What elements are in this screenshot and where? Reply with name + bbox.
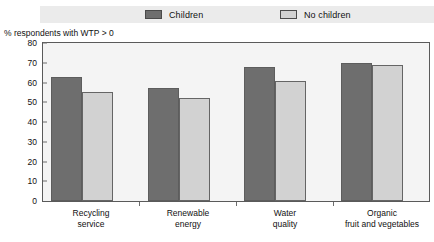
y-tick-label: 50 bbox=[28, 97, 37, 107]
y-tick-mark bbox=[43, 82, 47, 83]
plot-inner: 80 70 60 50 40 30 20 10 0 bbox=[43, 43, 429, 201]
x-label-line: Renewable bbox=[167, 208, 210, 219]
bar-no-children-2 bbox=[275, 81, 306, 201]
bar-no-children-3 bbox=[372, 65, 403, 201]
y-tick-label: 60 bbox=[28, 78, 37, 88]
x-axis-separator bbox=[236, 202, 237, 206]
bar-children-3 bbox=[341, 63, 372, 201]
x-axis-label-group: Organic fruit and vegetables bbox=[345, 208, 419, 229]
x-label-line: quality bbox=[273, 219, 298, 230]
x-label-line: fruit and vegetables bbox=[345, 219, 419, 230]
bar-children-1 bbox=[148, 88, 179, 201]
x-label-line: energy bbox=[167, 219, 210, 230]
x-label-line: Organic bbox=[345, 208, 419, 219]
plot-area: 80 70 60 50 40 30 20 10 0 bbox=[42, 42, 430, 202]
y-tick-mark bbox=[43, 122, 47, 123]
y-tick-mark bbox=[43, 62, 47, 63]
legend-item-children: Children bbox=[145, 10, 203, 20]
x-axis-label-group: Recycling service bbox=[73, 208, 110, 229]
legend-swatch-no-children bbox=[280, 10, 297, 19]
bar-children-0 bbox=[51, 77, 82, 201]
y-tick-mark bbox=[43, 102, 47, 103]
y-axis-title: % respondents with WTP > 0 bbox=[4, 28, 114, 38]
y-tick-label: 0 bbox=[32, 196, 37, 206]
bar-chart-figure: Children No children % respondents with … bbox=[0, 0, 434, 242]
y-tick-label: 40 bbox=[28, 117, 37, 127]
y-tick-mark bbox=[43, 141, 47, 142]
y-tick-label: 30 bbox=[28, 137, 37, 147]
x-label-line: Recycling bbox=[73, 208, 110, 219]
legend-item-no-children: No children bbox=[280, 10, 351, 20]
x-axis-separator bbox=[139, 202, 140, 206]
x-axis-label-group: Water quality bbox=[273, 208, 298, 229]
chart-legend: Children No children bbox=[40, 6, 434, 23]
y-tick-mark bbox=[43, 161, 47, 162]
y-tick-label: 10 bbox=[28, 176, 37, 186]
y-tick-label: 20 bbox=[28, 157, 37, 167]
x-label-line: Water bbox=[273, 208, 298, 219]
y-tick-mark bbox=[43, 181, 47, 182]
y-tick-mark bbox=[43, 43, 47, 44]
y-tick-label: 80 bbox=[28, 38, 37, 48]
x-axis-separator bbox=[333, 202, 334, 206]
legend-label-no-children: No children bbox=[304, 10, 351, 20]
x-label-line: service bbox=[73, 219, 110, 230]
legend-swatch-children bbox=[145, 10, 162, 19]
bar-no-children-1 bbox=[179, 98, 210, 201]
x-axis-label-group: Renewable energy bbox=[167, 208, 210, 229]
bar-no-children-0 bbox=[82, 92, 113, 201]
legend-label-children: Children bbox=[169, 10, 203, 20]
y-tick-label: 70 bbox=[28, 58, 37, 68]
bar-children-2 bbox=[244, 67, 275, 201]
